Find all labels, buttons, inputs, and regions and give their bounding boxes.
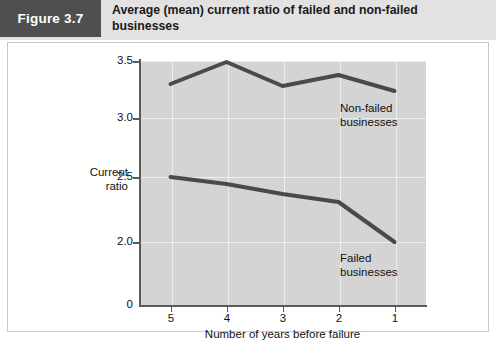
series-annotation-failed-line2: businesses xyxy=(340,266,398,280)
caption-text-cropped xyxy=(10,339,486,350)
y-axis-line xyxy=(139,59,141,307)
y-tick-label: 3.0 xyxy=(99,111,133,123)
y-tick-mark xyxy=(133,242,140,244)
series-annotation-failed-line1: Failed xyxy=(340,252,398,266)
x-tick-label: 3 xyxy=(272,312,294,324)
x-tick-label: 2 xyxy=(328,312,350,324)
y-tick-mark xyxy=(133,118,140,120)
figure-page: Figure 3.7 Average (mean) current ratio … xyxy=(0,0,496,351)
series-line-failed xyxy=(171,177,395,242)
line-chart: 3.5 3.0 2.5 2.0 0 5 4 3 2 1 businesses C… xyxy=(0,0,496,351)
series-annotation-non-failed-line1: Non-failed xyxy=(340,102,398,116)
series-annotation-failed: Failed businesses xyxy=(340,252,398,279)
series-annotation-non-failed-line2: businesses xyxy=(340,116,398,130)
series-line-non-failed xyxy=(171,62,395,91)
x-tick-label: 5 xyxy=(160,312,182,324)
y-tick-label: 3.5 xyxy=(99,54,133,66)
series-annotation-non-failed: Non-failed businesses xyxy=(340,102,398,129)
y-axis-title: businesses Current ratio xyxy=(73,166,128,193)
y-tick-label: 2.0 xyxy=(99,235,133,247)
y-tick-mark xyxy=(133,177,140,179)
x-tick-label: 1 xyxy=(384,312,406,324)
y-tick-label: 0 xyxy=(99,298,133,310)
x-tick-label: 4 xyxy=(216,312,238,324)
y-axis-title-text: Current ratio xyxy=(90,166,128,192)
y-tick-mark xyxy=(133,61,140,63)
